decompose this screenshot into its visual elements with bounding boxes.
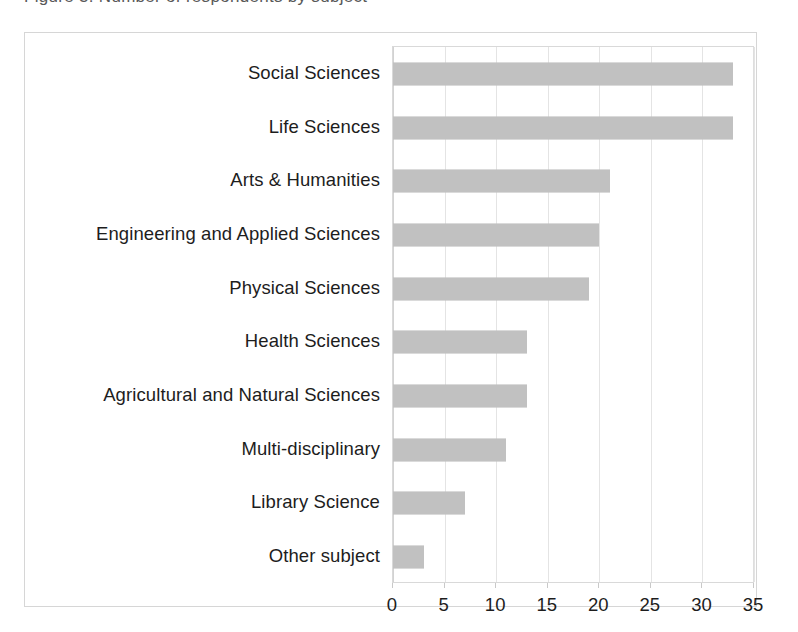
bar	[393, 170, 610, 193]
tick-mark-25	[650, 583, 651, 588]
tick-mark-35	[753, 583, 754, 588]
bar	[393, 62, 733, 85]
bar	[393, 546, 424, 569]
tick-label: 25	[640, 594, 661, 616]
tick-label: 10	[485, 594, 506, 616]
cut-off-title-remnant: Figure 3. Number of respondents by subje…	[0, 0, 798, 11]
tick-mark-20	[598, 583, 599, 588]
tick-label: 30	[691, 594, 712, 616]
gridline-35	[754, 47, 755, 582]
category-label: Other subject	[20, 545, 380, 567]
category-label: Engineering and Applied Sciences	[20, 223, 380, 245]
tick-label: 35	[743, 594, 764, 616]
cut-off-title-text: Figure 3. Number of respondents by subje…	[24, 0, 367, 7]
bar	[393, 331, 527, 354]
bar-chart: Social SciencesLife SciencesArts & Human…	[25, 33, 758, 608]
category-label: Arts & Humanities	[20, 169, 380, 191]
category-label: Social Sciences	[20, 62, 380, 84]
tick-mark-30	[701, 583, 702, 588]
tick-label: 15	[536, 594, 557, 616]
category-label: Life Sciences	[20, 116, 380, 138]
category-label: Agricultural and Natural Sciences	[20, 384, 380, 406]
tick-label: 0	[387, 594, 397, 616]
tick-label: 5	[438, 594, 448, 616]
tick-mark-0	[392, 583, 393, 588]
tick-mark-15	[547, 583, 548, 588]
bar	[393, 492, 465, 515]
tick-mark-10	[495, 583, 496, 588]
bar	[393, 385, 527, 408]
figure-frame: Social SciencesLife SciencesArts & Human…	[24, 32, 757, 607]
bar	[393, 438, 506, 461]
bar	[393, 116, 733, 139]
category-label: Library Science	[20, 491, 380, 513]
bar	[393, 277, 589, 300]
tick-mark-5	[444, 583, 445, 588]
category-label: Health Sciences	[20, 330, 380, 352]
category-label: Multi-disciplinary	[20, 438, 380, 460]
tick-label: 20	[588, 594, 609, 616]
bar	[393, 223, 599, 246]
category-label: Physical Sciences	[20, 277, 380, 299]
plot-area	[392, 46, 754, 583]
plot-right-edge	[753, 47, 754, 582]
